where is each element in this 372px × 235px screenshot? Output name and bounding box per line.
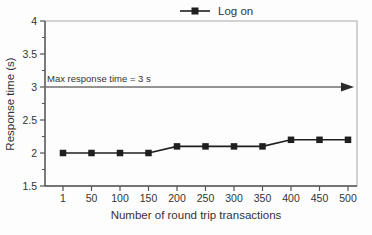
x-axis-tick-label: 250 [197, 192, 215, 204]
data-point-marker [231, 143, 238, 150]
legend-label: Log on [218, 5, 253, 17]
legend: Log on [180, 5, 253, 17]
y-axis-tick-label: 3 [31, 81, 37, 93]
x-axis-tick-label: 50 [86, 192, 98, 204]
x-axis-tick-label: 200 [168, 192, 186, 204]
x-axis-title: Number of round trip transactions [111, 209, 282, 221]
response-time-line-chart: Log on 1.522.533.54 15010015020025030035… [0, 0, 372, 235]
data-point-marker [345, 137, 352, 144]
x-axis-tick-label: 500 [339, 192, 357, 204]
x-axis-tick-label: 400 [282, 192, 300, 204]
data-point-marker [202, 143, 209, 150]
data-point-marker [259, 143, 266, 150]
y-axis-tick-label: 2 [31, 147, 37, 159]
x-axis-tick-label: 1 [60, 192, 66, 204]
x-axis-tick-label: 150 [140, 192, 158, 204]
response-time-figure: Log on 1.522.533.54 15010015020025030035… [0, 0, 372, 235]
data-point-marker [117, 150, 124, 157]
x-axis-tick-label: 300 [225, 192, 243, 204]
data-point-marker [288, 137, 295, 144]
y-axis-tick-label: 2.5 [22, 114, 37, 126]
axes [45, 21, 357, 186]
series-log-on [60, 137, 352, 157]
data-point-marker [316, 137, 323, 144]
legend-square-marker-icon [192, 8, 199, 15]
data-point-marker [88, 150, 95, 157]
data-point-marker [60, 150, 67, 157]
data-point-marker [174, 143, 181, 150]
y-axis-tick-label: 1.5 [22, 180, 37, 192]
y-axis-tick-label: 4 [31, 15, 37, 27]
y-axis-title: Response time (s) [4, 57, 16, 150]
x-axis-tick-label: 350 [254, 192, 272, 204]
x-axis-tick-label: 450 [311, 192, 329, 204]
max-response-annotation: Max response time = 3 s [46, 73, 354, 92]
x-axis-tick-label: 100 [111, 192, 129, 204]
arrowhead-icon [341, 83, 354, 92]
plot-frame [45, 21, 357, 186]
max-response-annotation-text: Max response time = 3 s [47, 73, 151, 84]
data-point-marker [145, 150, 152, 157]
x-axis-ticks: 150100150200250300350400450500 [60, 186, 357, 204]
y-axis-tick-label: 3.5 [22, 48, 37, 60]
y-axis-ticks: 1.522.533.54 [22, 15, 45, 192]
